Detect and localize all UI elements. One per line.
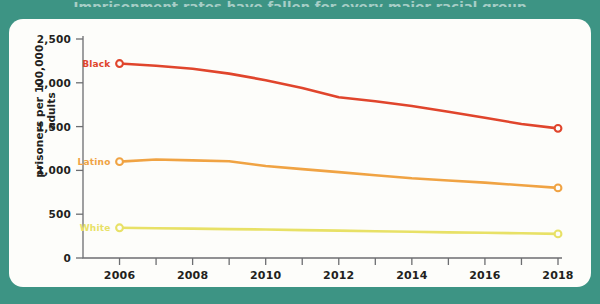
- x-axis-tick-label: 2010: [250, 269, 281, 282]
- series-label-latino: Latino: [78, 157, 116, 167]
- series-line-latino: [120, 159, 558, 187]
- x-axis-tick-label: 2008: [177, 269, 208, 282]
- series-label-white: White: [80, 223, 116, 233]
- series-endpoint-marker: [555, 231, 562, 238]
- y-axis-tick-label: 1,500: [11, 121, 71, 133]
- series-endpoint-marker: [116, 60, 123, 67]
- y-axis-tick-label: 2,500: [11, 33, 71, 45]
- x-axis-tick-label: 2016: [469, 269, 500, 282]
- series-endpoint-marker: [555, 125, 562, 132]
- x-axis-tick-label: 2018: [542, 269, 573, 282]
- line-chart: prisoners per 100,000 adults 05001,0001,…: [9, 19, 591, 287]
- y-axis-tick-label: 0: [11, 252, 71, 264]
- series-endpoint-marker: [555, 185, 562, 192]
- y-axis-tick-label: 2,000: [11, 77, 71, 89]
- y-axis-tick-label: 500: [11, 208, 71, 220]
- series-label-black: Black: [82, 59, 115, 69]
- x-axis-tick-label: 2014: [396, 269, 427, 282]
- series-line-white: [120, 228, 558, 234]
- y-axis-tick-label: 1,000: [11, 164, 71, 176]
- series-line-black: [120, 64, 558, 129]
- axis-lines: [83, 36, 562, 258]
- series-endpoint-marker: [116, 224, 123, 231]
- chart-card: prisoners per 100,000 adults 05001,0001,…: [9, 19, 591, 287]
- x-axis-tick-label: 2012: [323, 269, 354, 282]
- cropped-title: Imprisonment rates have fallen for every…: [0, 0, 600, 7]
- series-endpoint-marker: [116, 158, 123, 165]
- x-axis-tick-label: 2006: [104, 269, 135, 282]
